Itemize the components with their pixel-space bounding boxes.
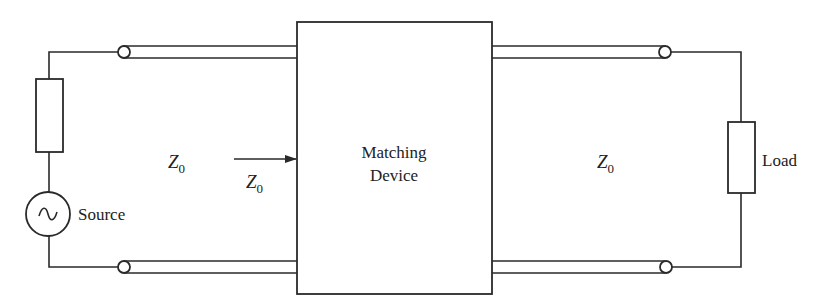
right-bottom-terminal-icon — [660, 261, 672, 273]
matching-device-label-line1: Matching — [361, 143, 427, 162]
matching-device: Matching Device — [297, 22, 492, 294]
left-top-terminal-icon — [118, 46, 130, 58]
load-resistor-icon — [728, 122, 755, 193]
right-transmission-line: Z0 — [492, 46, 672, 273]
matching-network-diagram: Source Z0 Z0 Matching Device Z0 Load — [0, 0, 828, 307]
source-circuit: Source — [26, 52, 125, 267]
input-impedance-label: Z0 — [246, 171, 263, 196]
right-line-impedance: Z0 — [597, 151, 614, 176]
source-label: Source — [78, 205, 125, 224]
load-label: Load — [762, 151, 797, 170]
load-circuit: Load — [671, 52, 797, 267]
left-bottom-terminal-icon — [118, 261, 130, 273]
source-top-wire — [49, 52, 118, 79]
source-bottom-wire — [49, 236, 118, 267]
left-line-impedance: Z0 — [168, 151, 185, 176]
load-bottom-wire — [672, 193, 741, 267]
matching-device-label-line2: Device — [370, 166, 418, 185]
right-top-terminal-icon — [659, 46, 671, 58]
load-top-wire — [671, 52, 741, 122]
source-resistor-icon — [36, 79, 63, 152]
input-impedance-indicator: Z0 — [234, 159, 296, 196]
